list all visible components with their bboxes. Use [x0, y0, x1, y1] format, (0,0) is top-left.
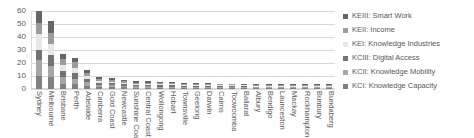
legend-item-label: KCI: Knowledge Capacity [352, 82, 437, 90]
bar-column[interactable] [287, 11, 299, 89]
bar-stack [302, 84, 308, 89]
x-axis-label-cell: Bunbury [313, 90, 325, 138]
legend-item[interactable]: KCII: Knowledge Mobility [343, 65, 474, 79]
bar-stack [229, 84, 235, 89]
x-axis-tick-label: Canberra [96, 91, 104, 122]
x-axis-label-cell: Darwin [203, 90, 215, 138]
bar-segment[interactable] [253, 88, 259, 89]
bar-stack [266, 84, 272, 89]
bar-stack [60, 54, 66, 89]
bar-segment[interactable] [266, 88, 272, 89]
x-axis-tick-label: Darwin [206, 91, 214, 114]
bar-segment[interactable] [302, 88, 308, 89]
bar-segment[interactable] [145, 88, 151, 89]
bar-stack [326, 84, 332, 89]
bar-column[interactable] [202, 11, 214, 89]
bar-stack [121, 80, 127, 89]
bar-segment[interactable] [217, 88, 223, 89]
bar-segment[interactable] [169, 88, 175, 89]
x-axis-tick-label: Wollongong [157, 91, 165, 130]
bar-segment[interactable] [48, 21, 54, 32]
bar-segment[interactable] [229, 88, 235, 89]
bar-column[interactable] [238, 11, 250, 89]
bar-column[interactable] [214, 11, 226, 89]
legend-item[interactable]: KEII: Income [343, 23, 474, 37]
x-axis-label-cell: Bundaberg [325, 90, 337, 138]
bar-stack [253, 84, 259, 89]
bar-segment[interactable] [60, 84, 66, 89]
bar-segment[interactable] [181, 88, 187, 89]
x-axis-label-cell: Ballarat [240, 90, 252, 138]
bar-segment[interactable] [36, 23, 42, 35]
bar-column[interactable] [190, 11, 202, 89]
bar-stack [193, 83, 199, 89]
bar-segment[interactable] [96, 87, 102, 89]
bar-column[interactable] [154, 11, 166, 89]
legend-item[interactable]: KEI: Knowledge Industries [343, 37, 474, 51]
x-axis-tick-label: Rockhampton [303, 91, 311, 137]
bar-segment[interactable] [36, 76, 42, 89]
x-axis-tick-label: Townsville [181, 91, 189, 125]
legend-swatch-icon [343, 56, 348, 61]
x-axis-label-cell: Launceston [276, 90, 288, 138]
bar-column[interactable] [45, 11, 57, 89]
bar-segment[interactable] [72, 84, 78, 89]
x-axis-tick-label: Bendigo [266, 91, 274, 119]
bar-column[interactable] [93, 11, 105, 89]
plot-area [31, 11, 335, 89]
bar-segment[interactable] [36, 50, 42, 60]
bar-segment[interactable] [133, 88, 139, 89]
bar-column[interactable] [142, 11, 154, 89]
bar-column[interactable] [299, 11, 311, 89]
x-axis-label-cell: Bendigo [264, 90, 276, 138]
bar-segment[interactable] [48, 77, 54, 89]
bar-segment[interactable] [326, 88, 332, 89]
bar-column[interactable] [178, 11, 190, 89]
chart-legend: KEIII: Smart WorkKEII: IncomeKEI: Knowle… [343, 9, 474, 93]
bar-segment[interactable] [314, 88, 320, 89]
bar-segment[interactable] [48, 44, 54, 56]
bar-segment[interactable] [36, 34, 42, 50]
bar-column[interactable] [118, 11, 130, 89]
bar-column[interactable] [130, 11, 142, 89]
bar-column[interactable] [226, 11, 238, 89]
x-axis-tick-label: Sunshine Coast [133, 91, 141, 138]
legend-item[interactable]: KCIII: Digital Access [343, 51, 474, 65]
bar-segment[interactable] [109, 87, 115, 89]
bar-column[interactable] [69, 11, 81, 89]
y-axis-tick-label: 60 [17, 7, 26, 15]
bar-segment[interactable] [48, 55, 54, 65]
x-axis-label-cell: Brisbane [57, 90, 69, 138]
bar-segment[interactable] [241, 88, 247, 89]
bar-column[interactable] [33, 11, 45, 89]
bar-segment[interactable] [157, 88, 163, 89]
bar-segment[interactable] [84, 86, 90, 89]
bar-column[interactable] [262, 11, 274, 89]
bar-column[interactable] [275, 11, 287, 89]
bar-column[interactable] [166, 11, 178, 89]
x-axis-label-cell: Central Coast [142, 90, 154, 138]
bar-segment[interactable] [193, 88, 199, 89]
bar-stack [145, 81, 151, 89]
x-axis-tick-label: Mackay [291, 91, 299, 117]
bar-stack [181, 83, 187, 89]
bar-column[interactable] [57, 11, 69, 89]
bar-column[interactable] [311, 11, 323, 89]
bar-segment[interactable] [48, 66, 54, 78]
bar-segment[interactable] [121, 87, 127, 89]
bar-stack [72, 58, 78, 89]
bar-segment[interactable] [36, 11, 42, 23]
bar-column[interactable] [323, 11, 335, 89]
bar-segment[interactable] [278, 88, 284, 89]
bar-column[interactable] [250, 11, 262, 89]
bar-segment[interactable] [48, 33, 54, 44]
bar-segment[interactable] [205, 88, 211, 89]
x-axis-label-cell: Toowoomba [228, 90, 240, 138]
x-axis-label-cell: Sydney [33, 90, 45, 138]
bar-segment[interactable] [36, 60, 42, 76]
bar-segment[interactable] [290, 88, 296, 89]
legend-item[interactable]: KCI: Knowledge Capacity [343, 79, 474, 93]
bar-column[interactable] [105, 11, 117, 89]
legend-item[interactable]: KEIII: Smart Work [343, 9, 474, 23]
bar-column[interactable] [81, 11, 93, 89]
